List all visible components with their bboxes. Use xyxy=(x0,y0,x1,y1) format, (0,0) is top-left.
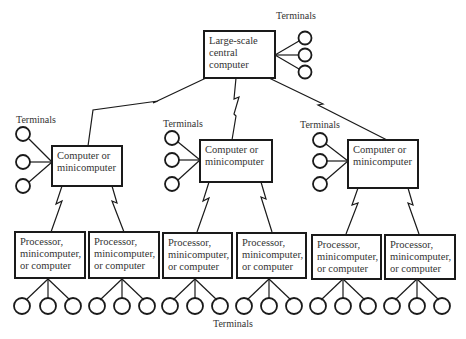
bottom-terminals xyxy=(14,298,450,314)
node-text: minicomputer xyxy=(205,156,267,168)
link-root-mid-right xyxy=(269,78,387,140)
node-text: Processor, xyxy=(20,236,80,248)
leaf-processor-node-4: Processor, minicomputer, or computer xyxy=(236,232,307,279)
node-text: computer xyxy=(209,59,270,71)
mid-right-terminals-label: Terminals xyxy=(300,119,340,130)
node-text: Computer or xyxy=(57,150,117,162)
bottom-terminals-label: Terminals xyxy=(213,318,253,329)
node-text: central xyxy=(209,47,270,59)
node-text: minicomputer, xyxy=(94,248,154,260)
mid-center-terminals-label: Terminals xyxy=(163,118,203,129)
node-text: minicomputer xyxy=(353,156,413,168)
node-text: or computer xyxy=(94,260,154,272)
node-text: minicomputer, xyxy=(390,251,450,263)
node-text: Processor, xyxy=(390,239,450,251)
mid-left-terminals xyxy=(16,127,52,193)
node-text: Processor, xyxy=(317,239,376,251)
leaf-processor-node-2: Processor, minicomputer, or computer xyxy=(88,231,160,279)
mid-computer-node-center: Computer or minicomputer xyxy=(199,139,273,183)
root-computer-node: Large-scale central computer xyxy=(203,30,276,79)
node-text: Processor, xyxy=(94,236,154,248)
node-text: or computer xyxy=(242,261,301,273)
leaf-processor-node-1: Processor, minicomputer, or computer xyxy=(14,231,86,279)
node-text: Processor, xyxy=(168,237,227,249)
node-text: or computer xyxy=(390,263,450,275)
root-terminals-label: Terminals xyxy=(276,10,316,21)
node-text: Computer or xyxy=(353,144,413,156)
mid-right-terminals xyxy=(313,133,348,191)
root-terminals xyxy=(275,32,312,79)
node-text: minicomputer, xyxy=(20,248,80,260)
node-text: minicomputer, xyxy=(168,249,227,261)
node-text: minicomputer xyxy=(57,162,117,174)
node-text: Computer or xyxy=(205,144,267,156)
leaf-processor-node-5: Processor, minicomputer, or computer xyxy=(311,234,382,280)
link-root-mid-left xyxy=(88,78,206,146)
mid-center-terminals xyxy=(165,131,200,191)
link-root-mid-left-z xyxy=(88,78,206,146)
node-text: Processor, xyxy=(242,237,301,249)
node-text: Large-scale xyxy=(209,35,270,47)
node-text: or computer xyxy=(168,261,227,273)
leaf-processor-node-3: Processor, minicomputer, or computer xyxy=(162,232,233,279)
node-text: minicomputer, xyxy=(317,251,376,263)
link-root-mid-center xyxy=(232,78,239,140)
mid-left-terminals-label: Terminals xyxy=(16,114,56,125)
leaf-processor-node-6: Processor, minicomputer, or computer xyxy=(384,234,456,280)
node-text: or computer xyxy=(317,263,376,275)
mid-computer-node-right: Computer or minicomputer xyxy=(347,139,419,189)
node-text: or computer xyxy=(20,260,80,272)
mid-computer-node-left: Computer or minicomputer xyxy=(51,145,123,187)
node-text: minicomputer, xyxy=(242,249,301,261)
